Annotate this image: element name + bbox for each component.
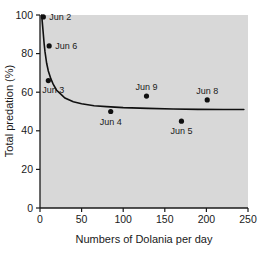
data-point-label: Jun 3 [42, 85, 64, 95]
data-point [41, 14, 46, 19]
x-tick-label: 0 [37, 213, 43, 225]
x-axis-title: Numbers of Dolania per day [76, 233, 213, 245]
data-point [144, 93, 149, 98]
chart-figure: 050100150200250 020406080100 Jun 2Jun 6J… [0, 0, 265, 254]
data-point [46, 78, 51, 83]
y-tick-label: 60 [21, 86, 33, 98]
data-point-label: Jun 8 [196, 86, 218, 96]
data-point-label: Jun 6 [55, 41, 77, 51]
x-tick-label: 250 [239, 213, 257, 225]
data-point [47, 43, 52, 48]
data-point-label: Jun 9 [135, 82, 157, 92]
y-tick-label: 100 [15, 9, 33, 21]
y-tick-label: 40 [21, 124, 33, 136]
x-axis-tick-labels: 050100150200250 [37, 213, 257, 225]
scatter-plot: 050100150200250 020406080100 Jun 2Jun 6J… [0, 0, 265, 254]
y-axis-title: Total predation (%) [3, 65, 15, 157]
x-tick-label: 200 [198, 213, 216, 225]
data-point-label: Jun 2 [49, 12, 71, 22]
y-axis-tick-labels: 020406080100 [15, 9, 33, 214]
x-tick-label: 50 [76, 213, 88, 225]
data-point [179, 119, 184, 124]
data-point [205, 97, 210, 102]
y-tick-label: 0 [27, 202, 33, 214]
y-tick-label: 20 [21, 163, 33, 175]
data-point-label: Jun 5 [170, 126, 192, 136]
y-tick-label: 80 [21, 47, 33, 59]
x-tick-label: 100 [114, 213, 132, 225]
data-point [108, 109, 113, 114]
x-tick-label: 150 [156, 213, 174, 225]
data-point-label: Jun 4 [100, 117, 122, 127]
